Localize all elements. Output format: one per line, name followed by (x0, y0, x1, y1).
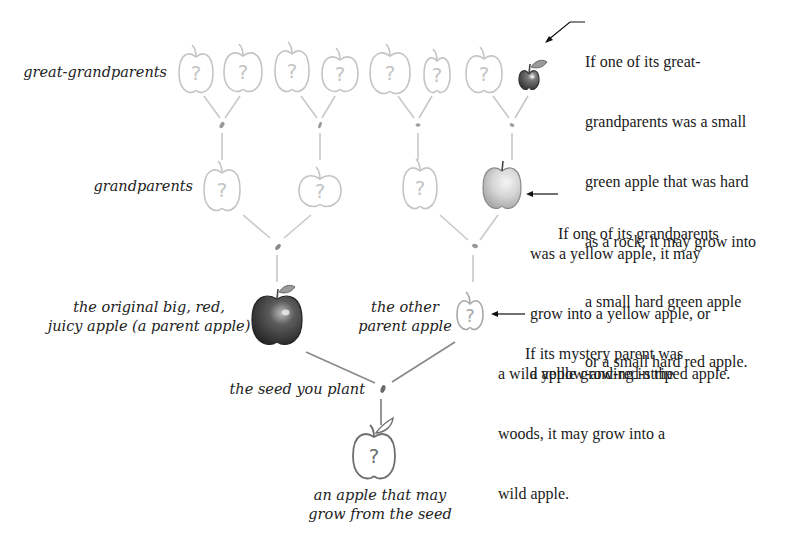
apple-stem-icon (277, 289, 278, 299)
apple-highlight (506, 179, 512, 184)
question-mark-icon: ? (238, 60, 249, 84)
connector (322, 96, 335, 118)
seed-icon (509, 122, 515, 128)
seed-icon (317, 121, 322, 129)
apples: ???????????? (179, 42, 547, 478)
grandparent-apple: ? (299, 167, 341, 206)
great-grandparent-apple: ? (179, 45, 213, 92)
connector (204, 96, 220, 118)
note-line: wild apple. (498, 484, 674, 504)
result-apple: ? (353, 418, 395, 478)
question-mark-icon: ? (415, 176, 426, 200)
connector (306, 352, 375, 383)
seed-icon (416, 123, 421, 127)
question-mark-icon: ? (335, 62, 346, 86)
grandparent-apple-yellow (483, 161, 521, 208)
seeds (219, 121, 516, 394)
seed-icon (471, 243, 478, 249)
note-line: If one of its great- (585, 52, 756, 72)
question-mark-icon: ? (191, 61, 202, 85)
arrow-great-grandparent (548, 22, 585, 40)
apple-stem-icon (529, 64, 530, 74)
label-result-apple: an apple that may grow from the seed (290, 486, 470, 524)
great-grandparent-apple: ? (424, 49, 450, 92)
connector (243, 215, 270, 238)
apple-body-icon (483, 168, 521, 208)
note-line: was a yellow apple, it may (530, 244, 730, 264)
great-grandparent-apple: ? (275, 42, 309, 91)
label-other-parent-line2: parent apple (355, 317, 455, 336)
question-mark-icon: ? (465, 305, 475, 326)
question-mark-icon: ? (315, 179, 326, 203)
connector (301, 96, 317, 118)
great-grandparent-apple-small-hard (519, 60, 547, 89)
note-line: a wild apple growing in the (498, 364, 674, 384)
note-line: grandparents was a small (585, 112, 756, 132)
connector (284, 215, 311, 238)
seed-icon (274, 243, 282, 251)
label-grandparents: grandparents (50, 177, 193, 196)
arrowhead-icon (526, 191, 533, 197)
label-original-apple-line2: juicy apple (a parent apple) (44, 317, 254, 336)
connectors-generation-2 (243, 215, 498, 282)
apple-stem-icon (502, 161, 503, 171)
label-result-line1: an apple that may (290, 486, 470, 505)
label-other-parent: the other parent apple (355, 298, 455, 336)
label-original-apple-line1: the original big, red, (44, 298, 254, 317)
label-seed: the seed you plant (200, 380, 365, 399)
question-mark-icon: ? (385, 61, 396, 85)
connector (440, 215, 468, 240)
question-mark-icon: ? (369, 444, 380, 468)
connector (419, 96, 432, 118)
arrowhead-icon (491, 311, 498, 317)
great-grandparent-apple: ? (322, 48, 358, 91)
apple-leaf-icon (376, 418, 393, 433)
apple-leaf-icon (279, 285, 295, 293)
connector (392, 342, 455, 382)
apple-highlight (282, 310, 290, 316)
question-mark-icon: ? (432, 63, 443, 87)
connector (515, 96, 528, 118)
apple-highlight (531, 76, 534, 78)
apple-leaf-icon (531, 60, 547, 68)
label-other-parent-line1: the other (355, 298, 455, 317)
label-great-grandparents: great-grandparents (20, 63, 167, 82)
connector (493, 96, 509, 118)
great-grandparent-apple: ? (224, 44, 262, 91)
seed-icon (219, 121, 226, 129)
apple-family-tree-diagram: ???????????? great-grandparents grandpar… (0, 0, 789, 545)
note-mystery-parent-continued: a wild apple growing in the woods, it ma… (498, 324, 674, 544)
grandparent-apple: ? (204, 161, 240, 210)
question-mark-icon: ? (287, 59, 298, 83)
great-grandparent-apple: ? (370, 44, 410, 93)
apple-body-icon (252, 296, 302, 344)
parent-apple-big-red (252, 285, 302, 344)
label-original-apple: the original big, red, juicy apple (a pa… (44, 298, 254, 336)
connector (398, 96, 414, 118)
connector (480, 215, 498, 240)
label-result-line2: grow from the seed (290, 505, 470, 524)
great-grandparent-apple: ? (466, 47, 502, 92)
seed-icon (380, 384, 387, 393)
note-line: woods, it may grow into a (498, 424, 674, 444)
connector (225, 96, 240, 118)
question-mark-icon: ? (217, 178, 228, 202)
question-mark-icon: ? (479, 62, 490, 86)
connectors-generation-3 (204, 96, 528, 160)
grandparent-apple: ? (403, 159, 437, 208)
parent-apple-mystery: ? (457, 292, 483, 329)
